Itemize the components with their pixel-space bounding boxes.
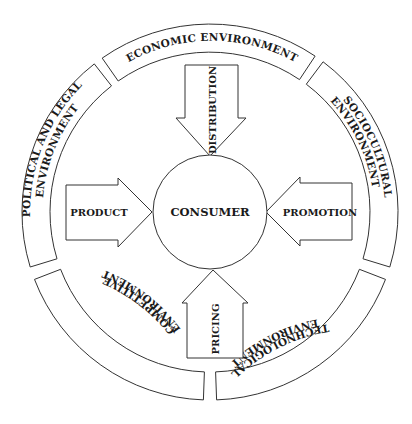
label-pricing: PRICING xyxy=(210,304,221,355)
label-product: PRODUCT xyxy=(70,207,128,218)
label-consumer: CONSUMER xyxy=(170,205,250,219)
label-distribution: DISTRIBUTION xyxy=(207,66,218,154)
label-competitive-line2: ENVIRONMENT xyxy=(100,268,183,335)
marketing-environment-diagram: ECONOMIC ENVIRONMENT SOCIOCULTURAL ENVIR… xyxy=(0,0,412,424)
label-promotion: PROMOTION xyxy=(283,207,357,218)
